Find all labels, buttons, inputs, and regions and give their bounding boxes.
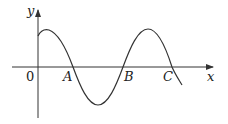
x-axis-label: x <box>207 69 215 84</box>
point-c-label: C <box>163 69 173 84</box>
point-a-label: A <box>62 69 72 84</box>
y-axis-label: y <box>26 3 35 18</box>
point-b-label: B <box>123 69 134 84</box>
origin-label: 0 <box>26 69 34 84</box>
sine-graph: y x 0 A B C <box>0 0 228 124</box>
